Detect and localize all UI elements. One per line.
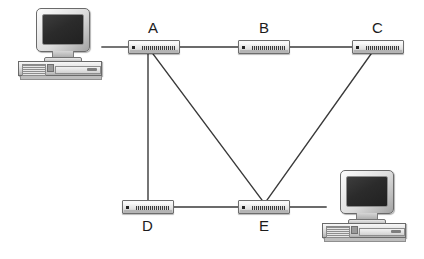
switch-label-b: B (259, 20, 270, 35)
switch-label-a: A (148, 20, 159, 35)
switch-a[interactable] (128, 40, 180, 54)
switch-b[interactable] (238, 40, 290, 54)
switch-label-c: C (372, 20, 383, 35)
computer-bottom-right (322, 170, 406, 242)
network-diagram-canvas: ABCDE (0, 0, 424, 259)
status-led-icon (132, 46, 135, 49)
switch-label-e: E (259, 218, 270, 233)
case-power-badge (351, 226, 358, 234)
desktop-case-icon (322, 223, 406, 238)
case-drive-button (391, 230, 401, 233)
computer-top-left (18, 8, 102, 80)
switch-top-face (240, 201, 288, 204)
case-foot (324, 238, 406, 242)
switch-c[interactable] (352, 40, 404, 54)
case-drive-bay (55, 66, 101, 74)
monitor-icon (340, 170, 394, 214)
switch-base-shadow (240, 50, 288, 52)
case-foot (20, 76, 102, 80)
case-drive-bay (359, 228, 405, 236)
desktop-case-icon (18, 61, 102, 76)
case-drive-button (87, 68, 97, 71)
case-power-badge (47, 64, 54, 72)
status-led-icon (242, 46, 245, 49)
switch-top-face (240, 41, 288, 44)
monitor-screen (346, 176, 388, 207)
switch-base-shadow (130, 50, 178, 52)
switch-label-d: D (142, 218, 153, 233)
monitor-chin (43, 45, 83, 50)
switch-top-face (354, 41, 402, 44)
case-vent (326, 226, 350, 238)
link-a-e (153, 54, 262, 200)
monitor-chin (347, 207, 387, 212)
monitor-icon (36, 8, 90, 52)
switch-base-shadow (354, 50, 402, 52)
switch-base-shadow (124, 210, 172, 212)
switch-top-face (130, 41, 178, 44)
switch-top-face (124, 201, 172, 204)
status-led-icon (356, 46, 359, 49)
status-led-icon (242, 206, 245, 209)
monitor-screen (42, 14, 84, 45)
case-vent (22, 64, 46, 76)
switch-d[interactable] (122, 200, 174, 214)
status-led-icon (126, 206, 129, 209)
switch-base-shadow (240, 210, 288, 212)
switch-e[interactable] (238, 200, 290, 214)
